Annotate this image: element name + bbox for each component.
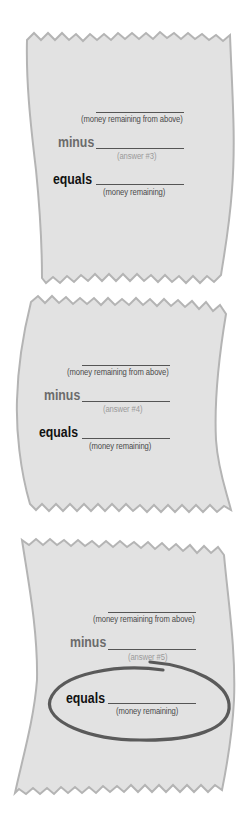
answer-caption: (answer #4) — [103, 404, 142, 414]
minus-label: minus — [44, 386, 80, 403]
money-remaining-line[interactable] — [108, 703, 196, 704]
money-remaining-caption: (money remaining) — [103, 187, 165, 197]
minus-label: minus — [70, 633, 106, 650]
money-remaining-from-above-caption: (money remaining from above) — [67, 367, 169, 377]
minus-answer-line[interactable] — [82, 401, 170, 402]
equals-label: equals — [66, 689, 105, 706]
money-remaining-from-above-line[interactable] — [108, 612, 196, 613]
equals-label: equals — [39, 423, 78, 440]
equals-label: equals — [53, 170, 92, 187]
money-remaining-caption: (money remaining) — [116, 706, 178, 716]
money-remaining-line[interactable] — [96, 184, 184, 185]
money-remaining-from-above-caption: (money remaining from above) — [81, 114, 183, 124]
receipt-3-paper — [15, 539, 234, 794]
answer-caption: (answer #3) — [117, 151, 156, 161]
money-remaining-line[interactable] — [82, 438, 170, 439]
answer-caption: (answer #5) — [128, 652, 167, 662]
minus-label: minus — [58, 133, 94, 150]
money-remaining-from-above-line[interactable] — [96, 112, 184, 113]
money-remaining-from-above-caption: (money remaining from above) — [93, 614, 195, 624]
money-remaining-from-above-line[interactable] — [82, 365, 170, 366]
minus-answer-line[interactable] — [108, 649, 196, 650]
minus-answer-line[interactable] — [96, 148, 184, 149]
money-remaining-caption: (money remaining) — [89, 441, 151, 451]
